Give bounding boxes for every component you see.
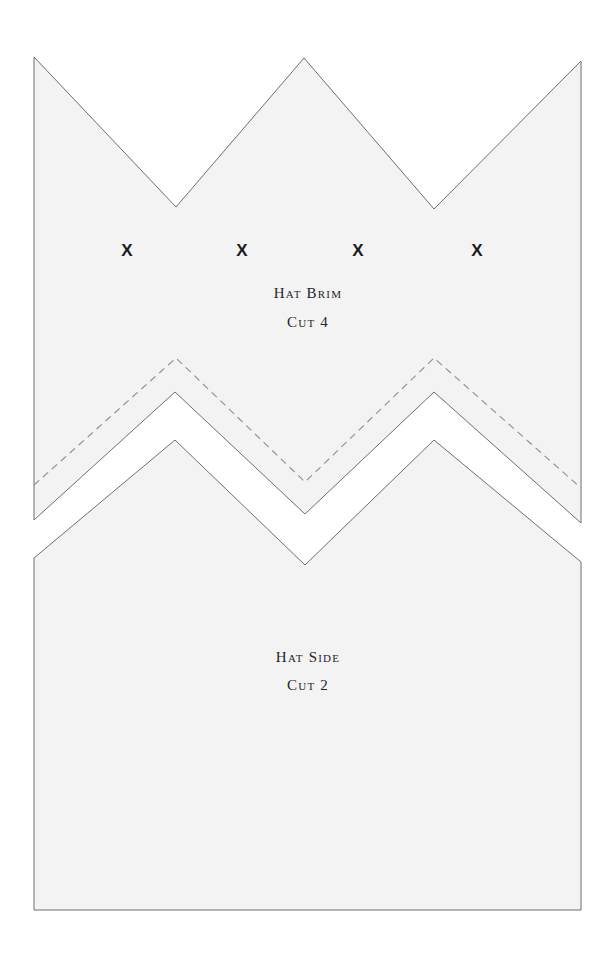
pattern-sheet: X X X X Hat Brim Cut 4 Hat Side Cut 2 [0, 0, 616, 955]
pattern-drawing [0, 0, 616, 955]
hat-brim-outline[interactable] [34, 57, 581, 523]
